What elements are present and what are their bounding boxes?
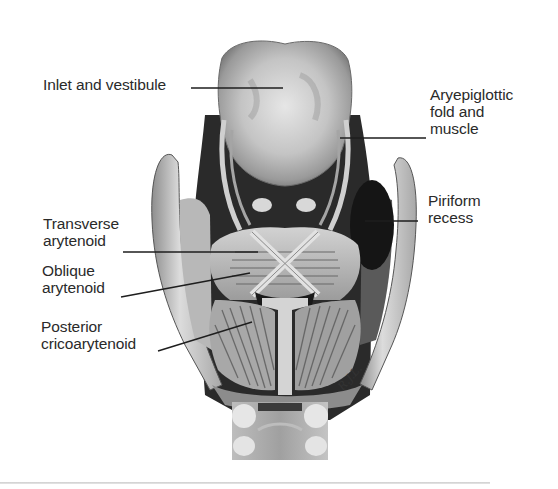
right-corniculate [296,198,316,212]
label-piriform-recess: Piriform recess [428,192,481,226]
right-tracheal-ring-upper [304,404,328,428]
bottom-divider [0,482,490,484]
label-posterior-cricoarytenoid: Posterior cricoarytenoid [41,318,136,352]
epiglottis [218,41,352,186]
right-tracheal-ring-lower [305,436,327,456]
label-oblique-arytenoid: Oblique arytenoid [42,262,105,296]
label-aryepiglottic-fold-and-muscle: Aryepiglottic fold and muscle [430,86,513,137]
left-tracheal-ring-lower [233,436,255,456]
left-tracheal-ring-upper [232,404,256,428]
left-corniculate [252,198,272,212]
trachea-shadow-band [258,403,302,411]
label-transverse-arytenoid: Transverse arytenoid [43,215,119,249]
label-inlet-and-vestibule: Inlet and vestibule [43,76,166,93]
